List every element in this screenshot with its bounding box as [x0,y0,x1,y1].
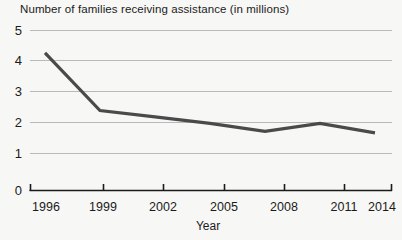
data-series-line [45,53,375,133]
x-tick-label-1996: 1996 [22,200,70,214]
x-axis-title-text: Year [196,219,220,233]
x-axis-title: Year [0,219,402,233]
x-tick-label-1999: 1999 [79,200,127,214]
line-chart: Number of families receiving assistance … [0,0,402,240]
x-tick-label-2002: 2002 [139,200,187,214]
x-tick-label-2005: 2005 [200,200,248,214]
x-tick-label-2008: 2008 [260,200,308,214]
x-tick-label-2014: 2014 [358,200,402,214]
